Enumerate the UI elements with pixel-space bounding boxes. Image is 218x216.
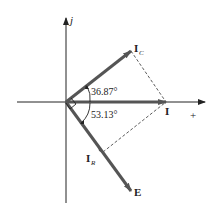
angle-arc-lower <box>81 103 90 123</box>
svg-text:C: C <box>139 49 144 57</box>
phasor-diagram: j + 36.87° 53.13° I C I I R E <box>0 0 218 216</box>
label-ir: I R <box>86 152 96 167</box>
label-i: I <box>165 105 169 117</box>
vertical-axis-label: j <box>68 14 73 26</box>
svg-text:R: R <box>90 159 96 167</box>
horizontal-axis-label: + <box>190 109 196 121</box>
label-e: E <box>134 186 141 198</box>
angle-label-upper: 36.87° <box>91 86 118 97</box>
angle-label-lower: 53.13° <box>91 109 118 120</box>
svg-text:I: I <box>134 42 138 54</box>
dashed-ic-to-i <box>131 51 166 102</box>
svg-text:I: I <box>86 152 90 164</box>
diagram-canvas: j + 36.87° 53.13° I C I I R E <box>0 0 218 216</box>
label-ic: I C <box>134 42 144 57</box>
